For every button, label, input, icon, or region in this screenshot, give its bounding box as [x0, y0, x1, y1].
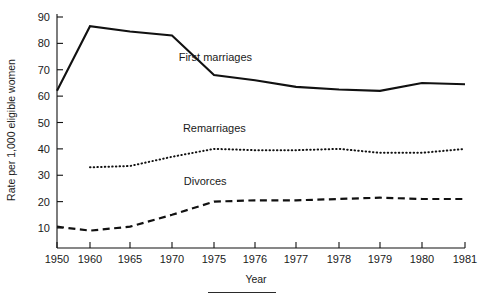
series-line-first-marriages: [57, 26, 465, 91]
figure-container: 102030405060708090 195019601965197019751…: [0, 0, 478, 306]
x-tick-label: 1976: [243, 253, 267, 265]
line-chart: 102030405060708090 195019601965197019751…: [0, 0, 478, 306]
x-tick-label: 1965: [118, 253, 142, 265]
x-tick-label: 1979: [368, 253, 392, 265]
series-label-divorces: Divorces: [184, 175, 227, 187]
x-tick-label: 1950: [45, 253, 69, 265]
x-tick-label: 1977: [284, 253, 308, 265]
y-tick-label: 70: [38, 64, 50, 76]
x-tick-label: 1978: [327, 253, 351, 265]
x-tick-label: 1980: [410, 253, 434, 265]
series-line-remarriages: [90, 149, 465, 167]
x-tick-label: 1975: [202, 253, 226, 265]
y-tick-label: 30: [38, 169, 50, 181]
x-axis-title: Year: [245, 273, 267, 285]
x-axis-tick-labels: 1950196019651970197519761977197819791980…: [45, 253, 477, 265]
x-tick-label: 1970: [160, 253, 184, 265]
x-axis-ticks: [57, 242, 465, 248]
x-tick-label: 1981: [453, 253, 477, 265]
y-tick-label: 60: [38, 90, 50, 102]
series-label-first-marriages: First marriages: [179, 51, 253, 63]
y-axis-tick-labels: 102030405060708090: [38, 11, 50, 234]
y-tick-label: 50: [38, 117, 50, 129]
y-tick-label: 10: [38, 222, 50, 234]
y-tick-label: 20: [38, 196, 50, 208]
y-axis-title: Rate per 1,000 eligible women: [5, 59, 17, 201]
y-axis-ticks: [57, 17, 63, 228]
series-label-remarriages: Remarriages: [183, 122, 246, 134]
y-tick-label: 90: [38, 11, 50, 23]
x-tick-label: 1960: [78, 253, 102, 265]
y-tick-label: 80: [38, 37, 50, 49]
series-line-divorces: [57, 198, 465, 231]
y-tick-label: 40: [38, 143, 50, 155]
footer-divider: [208, 292, 276, 293]
